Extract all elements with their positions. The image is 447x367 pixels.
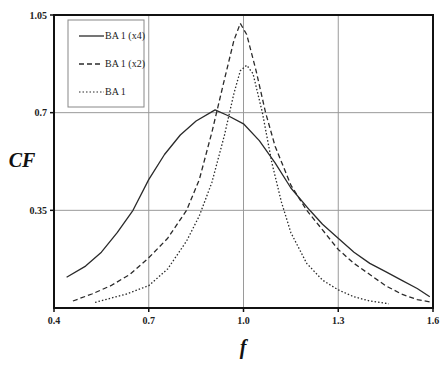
legend-label: BA 1 (x2)	[105, 58, 145, 70]
legend-label: BA 1	[105, 86, 126, 97]
x-tick-label: 0.4	[48, 315, 61, 326]
legend-label: BA 1 (x4)	[105, 30, 145, 42]
x-tick-label: 1.3	[332, 315, 345, 326]
x-tick-label: 0.7	[143, 315, 156, 326]
x-axis-label: f	[240, 336, 249, 359]
x-tick-label: 1.6	[427, 315, 440, 326]
y-tick-label: 0.7	[35, 107, 48, 118]
chart-canvas: 0.40.71.01.31.6 0.350.71.05 f CF BA 1 (x…	[0, 0, 447, 367]
x-axis-ticks: 0.40.71.01.31.6	[48, 308, 440, 326]
y-tick-label: 0.35	[30, 205, 48, 216]
y-axis-label: CF	[9, 149, 36, 171]
y-axis-ticks: 0.350.71.05	[30, 10, 55, 216]
series-solid-line	[67, 110, 430, 297]
y-tick-label: 1.05	[30, 10, 48, 21]
x-tick-label: 1.0	[237, 315, 250, 326]
legend: BA 1 (x4) BA 1 (x2) BA 1	[68, 20, 145, 107]
